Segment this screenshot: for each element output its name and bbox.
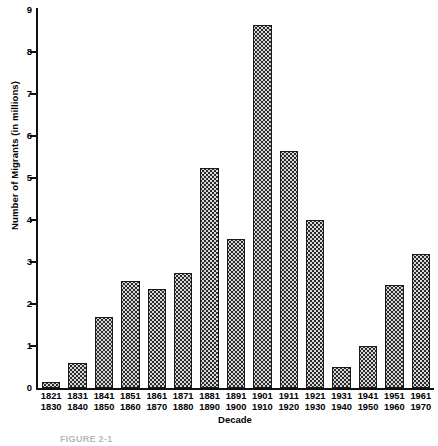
bar-slot [42, 10, 60, 388]
bar[interactable] [174, 273, 192, 389]
y-tick-label: 3 [27, 256, 32, 267]
bar[interactable] [95, 317, 113, 388]
y-tick-label: 6 [27, 130, 32, 141]
bar-slot [148, 10, 166, 388]
bar-slot [280, 10, 298, 388]
bar-slot [412, 10, 430, 388]
x-axis-title: Decade [36, 414, 434, 425]
bar[interactable] [359, 346, 377, 388]
bar[interactable] [253, 25, 271, 388]
y-tick-label: 9 [27, 4, 32, 15]
bar[interactable] [121, 281, 139, 388]
bar-slot [385, 10, 403, 388]
y-tick-label: 2 [27, 298, 32, 309]
bar[interactable] [68, 363, 86, 388]
bar-slot [200, 10, 218, 388]
bar[interactable] [42, 382, 60, 388]
y-tick-label: 0 [27, 382, 32, 393]
bar[interactable] [280, 151, 298, 388]
bar[interactable] [200, 168, 218, 389]
x-tick-label-line: 1961 [406, 391, 436, 402]
bar[interactable] [412, 254, 430, 388]
bar-slot [359, 10, 377, 388]
bar[interactable] [332, 367, 350, 388]
x-axis-line [36, 388, 434, 390]
bar-slot [174, 10, 192, 388]
bar-series [38, 10, 434, 388]
y-axis-title: Number of Migrants (in millions) [9, 56, 20, 256]
y-tick-label: 5 [27, 172, 32, 183]
x-tick-label-line: 1970 [406, 402, 436, 413]
bar-slot [332, 10, 350, 388]
bar[interactable] [306, 220, 324, 388]
plot-area: 0123456789 [36, 10, 434, 388]
x-tick-label: 19611970 [406, 391, 436, 413]
bar-slot [306, 10, 324, 388]
bar-slot [95, 10, 113, 388]
bar-chart-figure: Number of Migrants (in millions) 0123456… [0, 0, 438, 446]
y-tick-label: 4 [27, 214, 32, 225]
x-axis-tick-labels: 1821183018311840184118501851186018611870… [38, 391, 434, 415]
bar[interactable] [385, 285, 403, 388]
y-tick-label: 1 [27, 340, 32, 351]
y-tick-label: 7 [27, 88, 32, 99]
bar-slot [253, 10, 271, 388]
figure-caption: FIGURE 2-1 [60, 434, 420, 444]
bar-slot [121, 10, 139, 388]
bar[interactable] [227, 239, 245, 388]
bar-slot [227, 10, 245, 388]
y-tick-label: 8 [27, 46, 32, 57]
bar[interactable] [148, 289, 166, 388]
bar-slot [68, 10, 86, 388]
